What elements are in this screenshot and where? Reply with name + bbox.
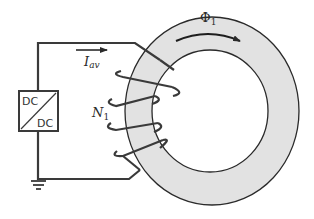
converter-input-label: DC [22, 95, 38, 108]
flux-label: Φ1 [200, 10, 216, 27]
converter-output-label: DC [37, 117, 53, 130]
ground-icon [31, 181, 46, 189]
dc-dc-converter: DC DC [19, 91, 58, 131]
core-inner-edge [152, 50, 268, 172]
current-label: Iav [83, 54, 100, 70]
toroid-circuit-diagram: Iav N1 Φ1 DC DC [0, 0, 314, 219]
diagram-svg: Iav N1 Φ1 DC DC [0, 0, 314, 219]
toroidal-core [125, 17, 299, 205]
winding-label: N1 [91, 105, 109, 122]
current-indicator: Iav [76, 50, 107, 70]
